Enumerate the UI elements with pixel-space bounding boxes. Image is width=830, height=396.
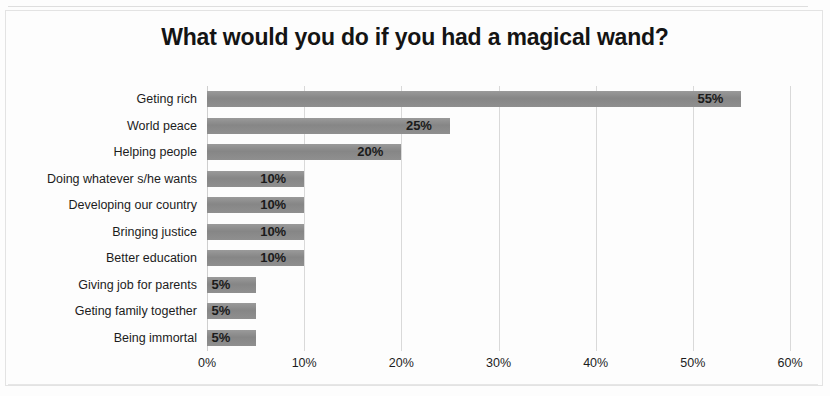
x-tick-label: 10% bbox=[274, 356, 334, 370]
x-tick-label: 40% bbox=[566, 356, 626, 370]
bar-value-label: 10% bbox=[260, 223, 286, 240]
bar-value-label: 10% bbox=[260, 170, 286, 187]
bar[interactable] bbox=[207, 197, 304, 213]
category-label: World peace bbox=[127, 113, 197, 140]
bar-value-label: 5% bbox=[212, 302, 231, 319]
bar[interactable] bbox=[207, 171, 304, 187]
bar-row: 10% bbox=[207, 219, 790, 246]
bar[interactable] bbox=[207, 91, 741, 107]
chart-title: What would you do if you had a magical w… bbox=[0, 24, 830, 51]
category-label: Geting family together bbox=[75, 298, 197, 325]
bar-value-label: 55% bbox=[697, 90, 723, 107]
category-label: Giving job for parents bbox=[78, 272, 197, 299]
bar[interactable] bbox=[207, 224, 304, 240]
x-tick-label: 30% bbox=[469, 356, 529, 370]
category-label: Doing whatever s/he wants bbox=[47, 166, 197, 193]
bar-value-label: 20% bbox=[357, 143, 383, 160]
x-axis: 0%10%20%30%40%50%60% bbox=[207, 356, 790, 378]
category-label: Better education bbox=[106, 245, 197, 272]
bar-row: 20% bbox=[207, 139, 790, 166]
chart-container: What would you do if you had a magical w… bbox=[0, 0, 830, 396]
scan-page-border-bottom bbox=[8, 384, 818, 385]
category-axis: Geting richWorld peaceHelping peopleDoin… bbox=[0, 86, 197, 351]
bar-row: 10% bbox=[207, 245, 790, 272]
x-tick-label: 0% bbox=[177, 356, 237, 370]
bar-value-label: 10% bbox=[260, 196, 286, 213]
bar-row: 25% bbox=[207, 113, 790, 140]
bar[interactable] bbox=[207, 250, 304, 266]
plot-area: 55%25%20%10%10%10%10%5%5%5% bbox=[207, 86, 790, 351]
scan-page-border-top bbox=[8, 6, 808, 7]
category-label: Being immortal bbox=[114, 325, 197, 352]
category-label: Bringing justice bbox=[112, 219, 197, 246]
bar-row: 5% bbox=[207, 298, 790, 325]
bar-value-label: 5% bbox=[212, 276, 231, 293]
bar-row: 10% bbox=[207, 192, 790, 219]
x-tick-label: 60% bbox=[760, 356, 820, 370]
bar-value-label: 25% bbox=[406, 117, 432, 134]
bar-value-label: 5% bbox=[212, 329, 231, 346]
gridline-60% bbox=[790, 86, 791, 351]
category-label: Helping people bbox=[114, 139, 197, 166]
bar-row: 5% bbox=[207, 325, 790, 352]
x-tick-label: 20% bbox=[371, 356, 431, 370]
x-tick-label: 50% bbox=[663, 356, 723, 370]
bar-row: 10% bbox=[207, 166, 790, 193]
bar-row: 5% bbox=[207, 272, 790, 299]
category-label: Geting rich bbox=[137, 86, 197, 113]
category-label: Developing our country bbox=[68, 192, 197, 219]
bar-value-label: 10% bbox=[260, 249, 286, 266]
bar-row: 55% bbox=[207, 86, 790, 113]
